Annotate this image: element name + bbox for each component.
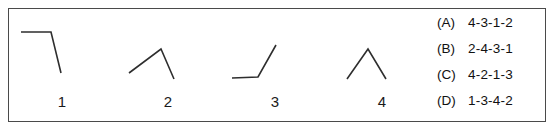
- option-a[interactable]: (A) 4-3-1-2: [437, 15, 543, 41]
- option-d-letter: (D): [437, 93, 468, 108]
- figure-1-label: 1: [9, 93, 115, 110]
- option-b[interactable]: (B) 2-4-3-1: [437, 41, 543, 67]
- option-a-value: 4-3-1-2: [468, 15, 513, 30]
- figure-2-graph: [115, 9, 221, 91]
- figure-3-label: 3: [222, 93, 328, 110]
- option-c[interactable]: (C) 4-2-1-3: [437, 67, 543, 93]
- option-a-letter: (A): [437, 15, 468, 30]
- option-d-value: 1-3-4-2: [468, 93, 513, 108]
- figure-item-2: 2: [115, 9, 221, 120]
- figure-4-graph: [329, 9, 435, 91]
- figure-1-graph: [9, 9, 115, 91]
- figure-4-line: [347, 49, 386, 79]
- answer-options-list: (A) 4-3-1-2 (B) 2-4-3-1 (C) 4-2-1-3 (D) …: [437, 15, 543, 119]
- figure-3-graph: [222, 9, 328, 91]
- figure-3-line: [232, 45, 276, 78]
- option-c-letter: (C): [437, 67, 468, 82]
- figure-item-4: 4: [329, 9, 435, 120]
- option-d[interactable]: (D) 1-3-4-2: [437, 93, 543, 119]
- figure-item-3: 3: [222, 9, 328, 120]
- figures-area: 1 2 3 4: [9, 9, 434, 120]
- option-b-value: 2-4-3-1: [468, 41, 513, 56]
- figure-item-1: 1: [9, 9, 115, 120]
- figure-4-label: 4: [329, 93, 435, 110]
- option-c-value: 4-2-1-3: [468, 67, 513, 82]
- figure-1-line: [21, 32, 61, 73]
- option-b-letter: (B): [437, 41, 468, 56]
- figure-2-line: [129, 49, 174, 79]
- question-panel: 1 2 3 4 (A) 4-3-1-2 (B) 2-: [8, 8, 546, 122]
- figure-2-label: 2: [115, 93, 221, 110]
